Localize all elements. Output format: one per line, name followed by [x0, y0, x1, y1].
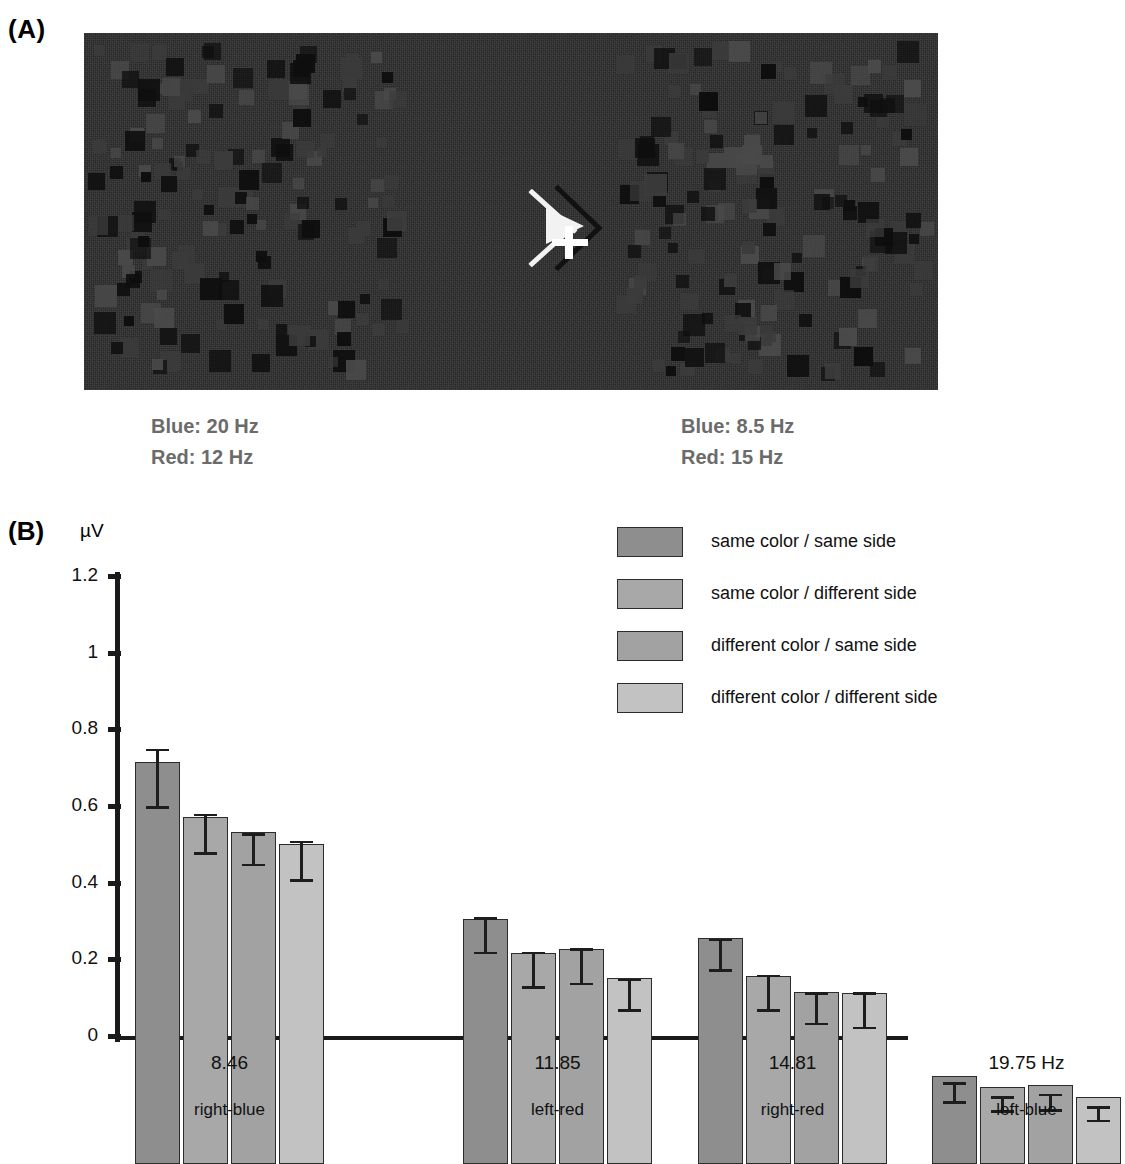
bar-column[interactable]	[1076, 704, 1121, 1164]
stimulus-square	[910, 284, 922, 296]
legend-label: same color / different side	[711, 583, 917, 604]
stimulus-square	[645, 174, 667, 196]
bar-column[interactable]	[842, 704, 887, 1164]
bar-column[interactable]	[607, 704, 652, 1164]
bar-column[interactable]	[559, 704, 604, 1164]
error-bar-cap-lower	[853, 1027, 876, 1030]
stimulus-square	[89, 216, 108, 235]
bar-column[interactable]	[183, 704, 228, 1164]
stimulus-square	[94, 45, 105, 56]
bar-column[interactable]	[980, 704, 1025, 1164]
error-bar-cap-upper	[853, 992, 876, 995]
stimulus-square	[396, 320, 409, 333]
stimulus-square	[666, 366, 676, 376]
y-axis-tick-label: 0.8	[36, 717, 98, 739]
error-bar	[580, 948, 583, 983]
bar-column[interactable]	[135, 704, 180, 1164]
stimulus-square	[297, 197, 309, 209]
legend-swatch	[617, 579, 683, 609]
stimulus-square	[616, 55, 635, 74]
stimulus-square	[162, 78, 180, 96]
y-axis-tick	[108, 574, 121, 579]
stimulus-square	[126, 274, 140, 288]
bar-column[interactable]	[1028, 704, 1073, 1164]
error-bar	[628, 979, 631, 1010]
stimulus-square	[289, 325, 310, 346]
stimulus-square	[298, 224, 314, 240]
stimulus-square	[724, 274, 737, 287]
error-bar	[532, 952, 535, 987]
stimulus-square	[839, 145, 859, 165]
stimulus-square	[317, 147, 327, 157]
stimulus-square	[157, 290, 167, 300]
stimulus-square	[787, 355, 809, 377]
stimulus-square	[871, 168, 885, 182]
stimulus-square	[130, 238, 151, 259]
stimulus-square	[863, 256, 879, 272]
bar-column[interactable]	[463, 704, 508, 1164]
error-bar-cap-upper	[1039, 1094, 1062, 1097]
legend-item[interactable]: same color / different side	[617, 575, 983, 627]
stimulus-square	[337, 332, 351, 346]
stimulus-square	[261, 285, 283, 307]
stimulus-square	[247, 214, 257, 224]
x-axis-condition-label: left-red	[438, 1100, 678, 1120]
stimulus-square	[193, 190, 203, 200]
error-bar-cap-lower	[290, 879, 313, 882]
stimulus-square	[705, 343, 725, 363]
stimulus-square	[154, 44, 166, 56]
bar-column[interactable]	[746, 704, 791, 1164]
x-axis-condition-label: right-blue	[110, 1100, 350, 1120]
stimulus-square	[252, 354, 270, 372]
stimulus-square	[792, 253, 802, 263]
stimulus-square	[909, 234, 919, 244]
stimulus-square	[681, 293, 698, 310]
stimulus-square	[384, 175, 398, 189]
bar-column[interactable]	[231, 704, 276, 1164]
stimulus-square	[835, 195, 847, 207]
stimulus-square	[696, 150, 709, 163]
stimulus-square	[160, 328, 177, 345]
y-axis-tick	[108, 651, 121, 656]
stimulus-square	[915, 261, 933, 279]
error-bar-cap-upper	[991, 1096, 1014, 1099]
bar-column[interactable]	[511, 704, 556, 1164]
stimulus-square	[262, 163, 282, 183]
error-bar	[156, 749, 159, 807]
left-red-frequency: Red: 12 Hz	[151, 442, 259, 473]
legend-swatch	[617, 683, 683, 713]
stimulus-square	[356, 221, 371, 236]
bar[interactable]	[698, 938, 743, 1164]
legend-item[interactable]: same color / same side	[617, 523, 983, 575]
bar-column[interactable]	[279, 704, 324, 1164]
stimulus-square	[866, 219, 884, 237]
stimulus-square	[290, 63, 311, 84]
bar-column[interactable]	[932, 704, 977, 1164]
bar-column[interactable]	[794, 704, 839, 1164]
stimulus-square	[668, 143, 684, 159]
legend-item[interactable]: different color / different side	[617, 679, 983, 731]
stimulus-square	[246, 197, 259, 210]
bar-column[interactable]	[698, 704, 743, 1164]
legend-item[interactable]: different color / same side	[617, 627, 983, 679]
error-bar	[767, 975, 770, 1010]
chart-legend: same color / same sidesame color / diffe…	[617, 523, 983, 731]
stimulus-square	[389, 91, 406, 108]
bar[interactable]	[463, 919, 508, 1164]
error-bar-cap-lower	[242, 864, 265, 867]
stimulus-square	[178, 246, 195, 263]
bar-group	[463, 704, 652, 1164]
stimulus-square	[799, 314, 812, 327]
stimulus-square	[93, 140, 106, 153]
stimulus-square	[161, 176, 177, 192]
stimulus-image	[84, 33, 938, 390]
stimulus-square	[651, 117, 671, 137]
stimulus-square	[841, 122, 853, 134]
error-bar-cap-upper	[194, 814, 217, 817]
stimulus-square	[906, 213, 921, 228]
error-bar-cap-upper	[474, 917, 497, 920]
stimulus-square	[289, 85, 309, 105]
stimulus-square	[635, 138, 655, 158]
stimulus-square	[258, 319, 268, 329]
stimulus-square	[256, 220, 266, 230]
